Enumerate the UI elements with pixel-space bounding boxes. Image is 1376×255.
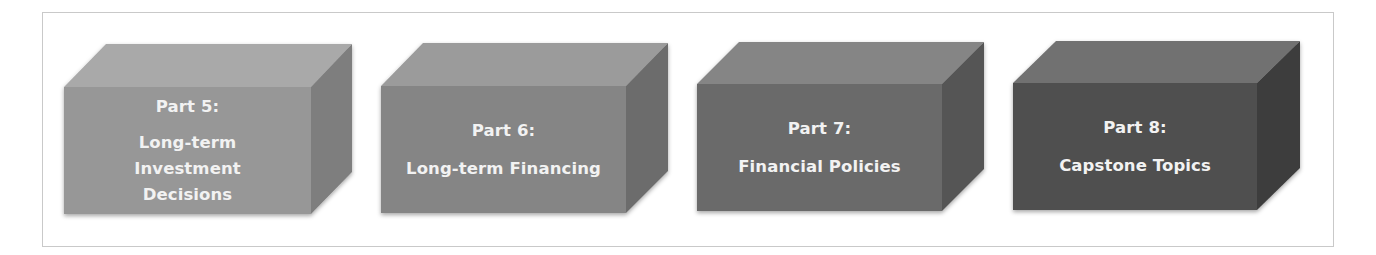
part-title-line: Decisions — [143, 182, 233, 208]
block-label: Part 8: Capstone Topics — [1013, 83, 1257, 210]
part-number: Part 8: — [1103, 115, 1166, 141]
part-title-line: Investment — [134, 156, 241, 182]
block-part-5: Part 5: Long-term Investment Decisions — [64, 44, 354, 216]
block-part-8: Part 8: Capstone Topics — [1013, 41, 1303, 213]
part-number: Part 5: — [156, 94, 219, 120]
part-title-line: Long-term Financing — [406, 156, 601, 182]
part-title-line: Capstone Topics — [1059, 153, 1211, 179]
part-title-line: Financial Policies — [738, 154, 901, 180]
block-label: Part 6: Long-term Financing — [381, 86, 626, 213]
block-part-6: Part 6: Long-term Financing — [381, 43, 671, 215]
block-label: Part 5: Long-term Investment Decisions — [64, 87, 311, 214]
block-label: Part 7: Financial Policies — [697, 84, 942, 211]
cube-top-face — [64, 44, 352, 87]
block-part-7: Part 7: Financial Policies — [697, 42, 987, 214]
part-number: Part 7: — [788, 116, 851, 142]
cube-top-face — [1013, 41, 1300, 83]
part-number: Part 6: — [472, 118, 535, 144]
cube-top-face — [381, 43, 668, 86]
part-title-line: Long-term — [139, 130, 237, 156]
cube-top-face — [697, 42, 984, 84]
